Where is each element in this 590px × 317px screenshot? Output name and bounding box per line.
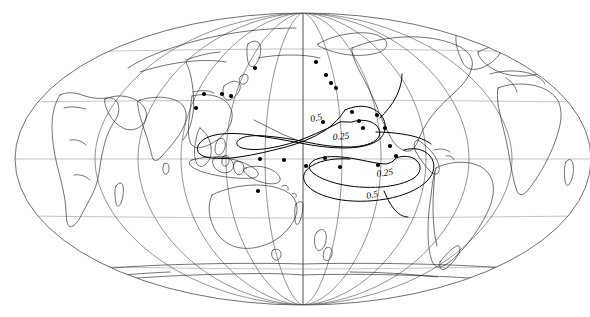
station-dot: [329, 81, 333, 85]
station-dot: [388, 144, 392, 148]
station-dot: [314, 60, 318, 64]
station-dot: [253, 66, 257, 70]
map-background: [0, 0, 590, 317]
station-dot: [324, 73, 328, 77]
contour-label-0p25: 0.25: [332, 131, 350, 142]
station-dot: [282, 158, 286, 162]
station-dot: [323, 156, 327, 160]
station-dot: [394, 154, 398, 158]
station-dot: [304, 164, 308, 168]
station-dot: [357, 119, 361, 123]
station-dot: [202, 92, 206, 96]
world-map-figure: 0.50.250.250.5: [0, 0, 590, 317]
station-dot: [334, 86, 338, 90]
map-canvas: 0.50.250.250.5: [0, 0, 590, 317]
station-dot: [258, 157, 262, 161]
station-dot: [256, 189, 260, 193]
station-dot: [375, 113, 379, 117]
station-dot: [383, 126, 387, 130]
station-dot: [350, 110, 354, 114]
station-dot: [220, 92, 224, 96]
station-dot: [194, 106, 198, 110]
station-dot: [361, 126, 365, 130]
station-dot: [376, 163, 380, 167]
station-dot: [338, 165, 342, 169]
station-dot: [229, 94, 233, 98]
